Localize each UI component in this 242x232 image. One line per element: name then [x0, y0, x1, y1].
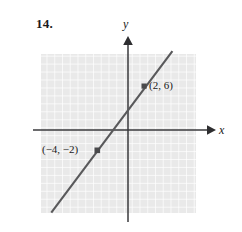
point-label-2-6: (2, 6) [149, 80, 173, 91]
figure-canvas: 14. y x (2, 6) (−4, −2) [0, 0, 242, 232]
y-axis-label: y [123, 18, 128, 30]
coordinate-plane-graph [0, 0, 242, 232]
graph-grid [41, 54, 196, 213]
x-axis-label: x [219, 124, 224, 136]
point-marker-neg4-neg2 [95, 148, 101, 154]
point-marker-2-6 [142, 84, 147, 89]
point-label-neg4-neg2: (−4, −2) [42, 144, 78, 155]
